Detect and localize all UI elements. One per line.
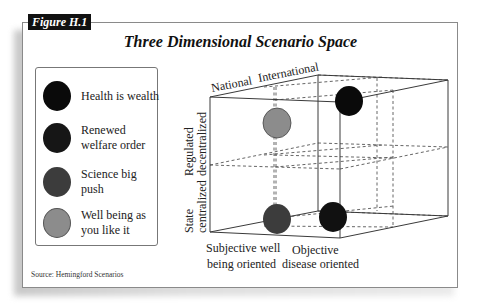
scenario-cube-diagram: National International Regulated decentr… [0,0,481,304]
axis-label-decentralized: decentralized [195,112,209,176]
axis-label-regulated: Regulated [182,127,196,176]
axis-label-being-oriented: being oriented [207,257,276,271]
axis-label-subjective-well: Subjective well [206,241,281,255]
axis-label-national: National [210,73,254,95]
axis-label-disease-oriented: disease oriented [282,257,359,271]
scenario-renewed-welfare-order-dot [319,202,347,232]
axis-label-state: State [182,209,196,233]
axis-label-objective: Objective [292,243,339,257]
source-note: Source: Hemingford Scenarios [31,270,123,279]
axis-label-centralized: centralized [195,180,209,233]
scenario-science-big-push-dot [263,204,291,234]
scenario-well-being-as-you-like-it-dot [263,108,291,138]
scenario-health-is-wealth-dot [335,86,363,116]
